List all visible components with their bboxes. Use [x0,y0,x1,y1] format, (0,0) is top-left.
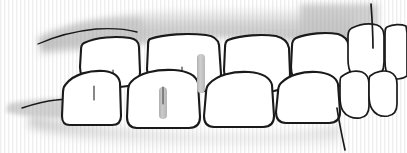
dental-illustration-canvas [0,0,407,153]
lower-first-molar [276,72,340,123]
lower-canine [62,71,121,125]
lower-second-premolar [204,72,274,127]
upper-incisor-marker [197,54,205,93]
lower-third-molar [369,71,397,116]
dental-occlusion-figure: Lateral view of dental occlusion Line dr… [0,0,407,153]
lower-second-molar [340,71,369,118]
